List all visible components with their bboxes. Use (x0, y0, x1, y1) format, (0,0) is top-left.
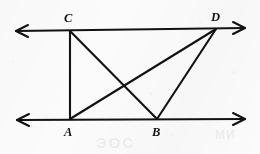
segment-CB (70, 31, 157, 119)
geometry-figure: C D A B ЭОС NM (0, 0, 260, 154)
vertex-label-A: A (64, 126, 72, 139)
vertex-label-C: C (64, 12, 72, 25)
vertex-label-D: D (211, 11, 220, 24)
figure-canvas (0, 0, 260, 154)
vertex-label-B: B (152, 126, 160, 139)
lower-parallel-line (17, 119, 245, 120)
upper-parallel-line (16, 28, 245, 31)
segment-BD (157, 29, 216, 119)
